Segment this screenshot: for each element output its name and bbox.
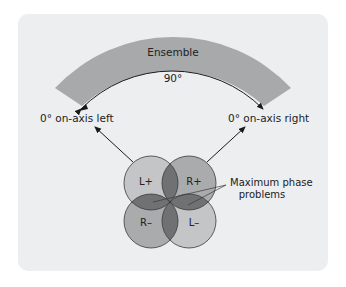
arrow-to-left-label [95,127,133,162]
left-axis-label: 0° on-axis left [40,112,114,124]
arrow-to-right-label [207,127,245,162]
callout-label-line1: Maximum phase [230,177,313,188]
arc-arrowhead-left-icon [79,104,88,111]
angle-label: 90° [164,72,183,84]
label-l-minus: L– [189,217,200,228]
callout-label-line2: problems [239,189,286,200]
ensemble-label: Ensemble [147,46,199,58]
label-r-minus: R– [140,217,152,228]
right-axis-label: 0° on-axis right [228,112,309,124]
label-l-plus: L+ [139,176,153,187]
label-r-plus: R+ [186,176,201,187]
mid-side-diagram: Ensemble 90° 0° on-axis left 0° on-axis … [0,0,346,287]
polar-pattern-circles: L+ R+ R– L– [124,156,216,248]
